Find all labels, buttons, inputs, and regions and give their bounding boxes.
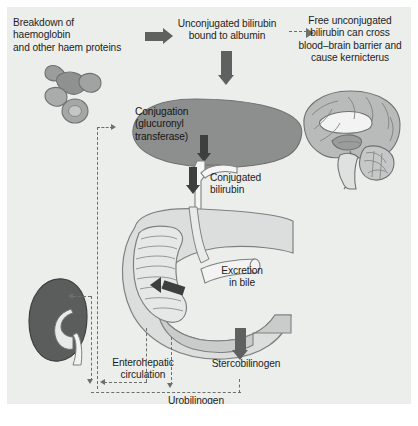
label-kernicterus: Free unconjugated bilirubin can cross bl… [290, 15, 410, 65]
dashed-line-urobilinogen-vertical [171, 337, 172, 385]
dashed-arrow-enterohepatic-left [100, 379, 105, 385]
label-urobilinogen: Urobilinogen [141, 395, 251, 404]
dashed-line-enterohepatic-down [146, 328, 147, 382]
red-blood-cells-icon [25, 55, 130, 127]
label-breakdown: Breakdown of haemoglobin and other haem … [13, 17, 143, 54]
label-conjugated-bilirubin: Conjugated bilirubin [210, 172, 296, 197]
dashed-line-liver-entry [97, 127, 113, 128]
label-enterohepatic-circulation: Enterohepatic circulation [91, 357, 195, 382]
label-stercobilinogen: Stercobilinogen [191, 358, 301, 370]
dashed-line-left-vertical [97, 127, 98, 389]
label-unconjugated-bilirubin: Unconjugated bilirubin bound to albumin [167, 18, 287, 43]
dashed-arrow-urobilinogen-down [167, 383, 173, 388]
brain-icon [288, 85, 411, 193]
diagram-plate: Breakdown of haemoglobin and other haem … [7, 7, 411, 404]
label-conjugation: Conjugation (glucuronyl transferase) [135, 106, 245, 143]
dashed-line-right-vertical [239, 379, 240, 393]
dashed-line-enterohepatic-left [104, 382, 147, 383]
figure-canvas: Breakdown of haemoglobin and other haem … [0, 0, 418, 426]
kidney-icon [23, 275, 95, 367]
dashed-line-bottom-horizontal [91, 392, 241, 393]
label-excretion-in-bile: Excretion in bile [203, 265, 281, 290]
